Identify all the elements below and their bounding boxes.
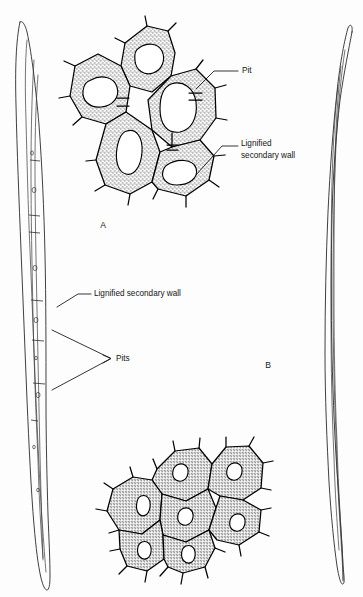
panel-label-b: B (265, 360, 271, 370)
cell-lumen (138, 542, 152, 559)
figure-canvas: Pit Lignified secondary wall Lignified s… (0, 0, 363, 597)
panel-label-a: A (100, 220, 106, 230)
cell-lumen (163, 160, 197, 185)
cell-lumen (182, 546, 196, 563)
cell-lumen (227, 463, 242, 480)
label-lignified-secondary-wall-upper-line2: secondary wall (241, 151, 295, 160)
cell-lumen (160, 83, 196, 132)
cell-lumen (116, 130, 142, 174)
label-lignified-secondary-wall-fiber: Lignified secondary wall (94, 289, 181, 298)
cell-lumen (83, 77, 118, 107)
cell-lumen (135, 44, 164, 74)
cell-lumen (178, 508, 193, 525)
label-lignified-secondary-wall-upper-line1: Lignified (241, 139, 272, 148)
cell-lumen (230, 514, 245, 531)
label-pit-upper: Pit (242, 66, 252, 75)
label-pits-fiber: Pits (116, 354, 130, 363)
cell-lumen (173, 464, 188, 481)
fibre-anatomy-diagram: Pit Lignified secondary wall Lignified s… (0, 0, 363, 597)
cell-lumen (137, 496, 151, 516)
